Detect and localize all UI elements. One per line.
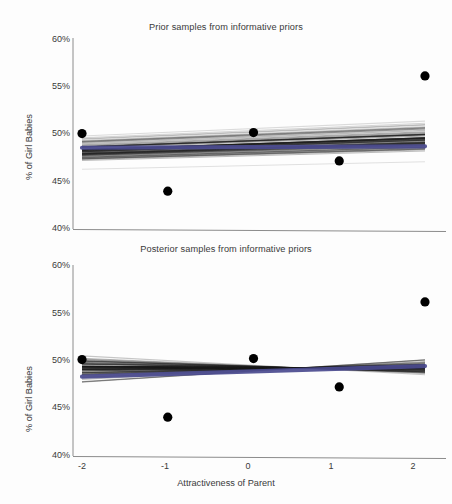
prior-mean-line xyxy=(82,146,425,147)
x-axis-label: Attractiveness of Parent xyxy=(0,478,452,488)
data-point xyxy=(249,354,258,363)
x-axis-line-prior xyxy=(73,230,446,232)
data-point xyxy=(335,156,344,165)
x-tick-2: 2 xyxy=(398,461,428,471)
data-point xyxy=(249,128,258,137)
x-axis-line-posterior xyxy=(73,457,446,459)
plot-area-prior xyxy=(0,0,452,252)
data-point xyxy=(420,71,429,80)
data-point xyxy=(335,382,344,391)
mean-regression-line xyxy=(82,146,425,147)
data-point xyxy=(77,355,86,364)
x-tick-1: 1 xyxy=(316,461,346,471)
data-point xyxy=(163,187,172,196)
data-point xyxy=(77,129,86,138)
sampled-regression-line xyxy=(82,162,425,169)
data-point xyxy=(163,413,172,422)
x-tick-0: 0 xyxy=(233,461,263,471)
chart-panel-prior: Prior samples from informative priors % … xyxy=(0,0,452,252)
posterior-data-points xyxy=(77,297,429,421)
figure-canvas: Prior samples from informative priors % … xyxy=(0,0,452,504)
x-tick-neg2: -2 xyxy=(67,461,97,471)
x-tick-neg1: -1 xyxy=(150,461,180,471)
chart-panel-posterior: Posterior samples from informative prior… xyxy=(0,240,452,504)
data-point xyxy=(420,297,429,306)
